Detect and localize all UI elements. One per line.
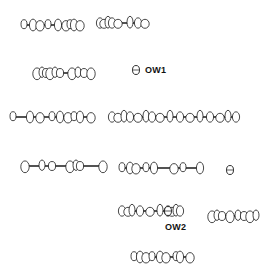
atom-ellipsoid — [232, 112, 239, 122]
atom-ellipsoid — [132, 164, 140, 174]
atom-ellipsoid — [186, 253, 194, 263]
atom-ellipsoid — [56, 111, 63, 123]
molecule — [10, 111, 95, 123]
atom-ellipsoid — [225, 110, 231, 122]
atom-ellipsoid — [141, 19, 149, 28]
atom-ellipsoid — [143, 163, 149, 172]
atom-ellipsoid — [126, 112, 133, 122]
molecule — [33, 67, 95, 80]
atom-ellipsoid — [26, 111, 33, 123]
atom-ellipsoid — [45, 20, 51, 29]
atom-ellipsoid — [218, 212, 225, 221]
atom-ellipsoid — [114, 19, 122, 28]
atom-ellipsoid — [197, 110, 203, 122]
atom-ellipsoid — [87, 113, 95, 123]
atom-ellipsoid — [216, 113, 224, 122]
atom-ellipsoid — [148, 112, 155, 122]
atom-ellipsoid — [176, 206, 183, 216]
atom-ellipsoid — [150, 162, 157, 174]
atom-ellipsoid — [119, 163, 125, 172]
atom-ellipsoid — [76, 111, 83, 123]
atom-ellipsoid — [87, 68, 95, 80]
molecule — [208, 210, 259, 223]
atom-ellipsoid — [149, 252, 155, 261]
atom-ellipsoid — [253, 210, 259, 220]
atom-ellipsoid — [49, 112, 55, 121]
atom-ellipsoid — [10, 112, 16, 121]
molecule — [131, 251, 194, 263]
atom-ellipsoid — [36, 21, 44, 31]
atom-ellipsoid — [134, 113, 142, 122]
atom-ellipsoid — [196, 162, 203, 174]
atom-ellipsoid — [54, 19, 61, 31]
label-ow2: OW2 — [165, 222, 186, 232]
atom-ellipsoid — [39, 160, 45, 170]
crystal-packing-diagram — [0, 0, 267, 279]
atom-ellipsoid — [56, 69, 63, 78]
atom-ellipsoid — [127, 16, 133, 28]
molecule — [21, 19, 84, 31]
atom-ellipsoid — [21, 20, 27, 29]
atom-ellipsoid — [99, 161, 107, 173]
atom-ellipsoid — [76, 21, 84, 31]
atom-ellipsoid — [176, 251, 183, 263]
atom-ellipsoid — [146, 207, 154, 216]
molecule — [96, 16, 149, 28]
atom-ellipsoid — [157, 204, 163, 216]
atom-ellipsoid — [76, 162, 83, 171]
atom-ellipsoid — [180, 163, 186, 172]
atom-ellipsoid — [170, 164, 178, 174]
molecule — [21, 160, 107, 173]
atom-ellipsoid — [21, 161, 29, 173]
atom-ellipsoid — [156, 113, 164, 122]
atom-ellipsoid — [186, 113, 194, 122]
atom-ellipsoid — [162, 253, 170, 263]
molecule — [118, 204, 183, 216]
atom-ellipsoid — [129, 204, 135, 216]
atom-ellipsoid — [206, 112, 213, 122]
label-ow1: OW1 — [145, 65, 166, 75]
atom-ellipsoid — [176, 112, 183, 122]
molecule — [119, 162, 204, 174]
atom-ellipsoid — [36, 113, 44, 123]
atom-ellipsoid — [226, 211, 234, 223]
atom-ellipsoid — [136, 206, 143, 216]
molecule — [108, 110, 239, 122]
atom-ellipsoid — [48, 162, 55, 171]
atom-ellipsoid — [167, 110, 173, 122]
